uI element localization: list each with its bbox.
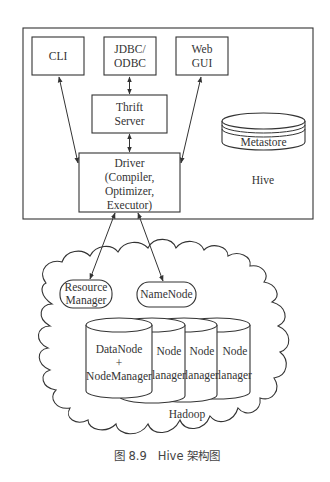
driver-node: Driver (Compiler, Optimizer, Executor)	[79, 153, 180, 212]
svg-text:DataNode: DataNode	[96, 343, 143, 355]
svg-text:lanager: lanager	[218, 369, 252, 382]
svg-text:lanager: lanager	[152, 369, 186, 382]
svg-text:NodeManager: NodeManager	[86, 370, 152, 383]
svg-text:Server: Server	[114, 115, 144, 127]
cli-node: CLI	[32, 37, 84, 75]
metastore-label: Metastore	[241, 136, 287, 148]
svg-text:Thrift: Thrift	[116, 101, 144, 113]
svg-text:Executor): Executor)	[107, 199, 153, 212]
svg-text:GUI: GUI	[192, 57, 213, 69]
cli-label: CLI	[49, 50, 68, 62]
resource-manager-node: Resource Manager	[60, 280, 112, 308]
svg-text:JDBC/: JDBC/	[114, 43, 146, 55]
svg-text:Driver: Driver	[114, 157, 144, 169]
namenode-node: NameNode	[137, 282, 196, 307]
jdbc-odbc-node: JDBC/ ODBC	[104, 37, 156, 75]
thrift-server-node: Thrift Server	[92, 95, 167, 133]
svg-text:Node: Node	[190, 345, 215, 357]
svg-text:Node: Node	[223, 345, 248, 357]
metastore-node: Metastore	[222, 113, 305, 150]
svg-text:ODBC: ODBC	[114, 57, 146, 69]
namenode-label: NameNode	[140, 288, 192, 300]
svg-text:Manager: Manager	[66, 294, 107, 307]
svg-text:Optimizer,: Optimizer,	[105, 185, 154, 198]
web-gui-node: Web GUI	[176, 37, 228, 75]
svg-text:(Compiler,: (Compiler,	[105, 171, 155, 184]
svg-text:+: +	[116, 357, 123, 369]
hive-label: Hive	[252, 174, 274, 186]
datanode-cylinder-1: DataNode + NodeManager	[86, 318, 152, 398]
svg-text:lanager: lanager	[185, 369, 219, 382]
svg-text:Resource: Resource	[65, 281, 108, 293]
hive-architecture-diagram: CLI JDBC/ ODBC Web GUI Thrift Server Dri…	[0, 0, 330, 482]
figure-caption: 图 8.9 Hive 架构图	[114, 449, 220, 463]
hadoop-label: Hadoop	[169, 408, 206, 421]
svg-text:Node: Node	[157, 345, 182, 357]
svg-text:Web: Web	[192, 43, 213, 55]
